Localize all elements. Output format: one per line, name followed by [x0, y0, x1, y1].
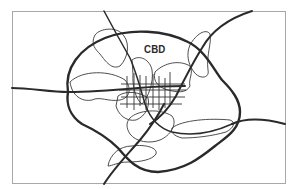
urban-structure-diagram: CBD: [0, 0, 295, 189]
cbd-label: CBD: [144, 43, 166, 55]
diagram-canvas: [0, 0, 295, 189]
outer-frame: [13, 12, 286, 184]
